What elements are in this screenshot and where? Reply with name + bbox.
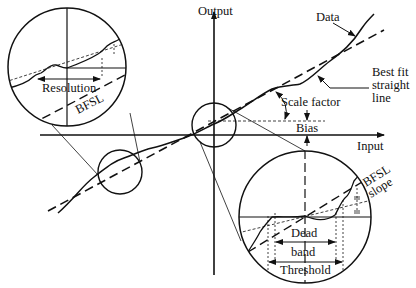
bfsl-label-line3: line	[372, 91, 391, 105]
bfsl-label-line2: straight	[372, 78, 410, 92]
threshold-label: Threshold	[280, 263, 331, 277]
bfsl-pointer	[318, 76, 369, 88]
data-pointer	[333, 23, 355, 36]
output-axis-label: Output	[198, 4, 233, 18]
leader-line	[200, 142, 241, 241]
dead-band-label-line1: Dead	[291, 226, 318, 240]
input-axis-label: Input	[357, 139, 384, 153]
best-fit-straight-line	[48, 30, 384, 211]
sensor-characteristics-diagram: Output Input Scale factor Bias Data Best…	[0, 0, 416, 288]
bfsl-label-line1: Best fit	[372, 65, 409, 79]
resolution-label: Resolution	[42, 81, 97, 95]
scale-factor-label: Scale factor	[281, 95, 341, 109]
leader-line	[52, 125, 98, 175]
data-curve	[58, 14, 374, 213]
dead-band-label-line2: band	[291, 245, 316, 259]
leader-line	[228, 108, 305, 151]
bias-label: Bias	[296, 121, 318, 135]
left-detail-circle	[98, 150, 142, 194]
data-label: Data	[316, 10, 340, 24]
resolution-detail-circle	[5, 5, 130, 130]
